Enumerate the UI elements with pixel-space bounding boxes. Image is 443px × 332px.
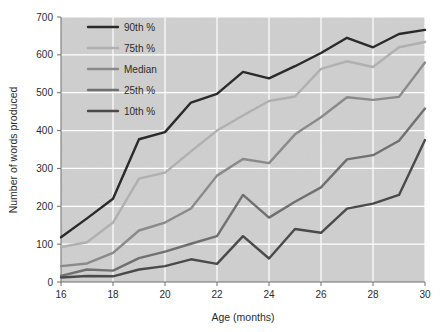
legend-label-median: Median <box>124 64 157 75</box>
y-tick-label: 500 <box>36 87 53 98</box>
x-axis-tick-marks <box>61 282 425 286</box>
plot-texture <box>61 17 425 282</box>
percentile-line-chart: 0100200300400500600700 1618202224262830 … <box>0 0 443 332</box>
y-axis-title: Number of words produced <box>7 87 19 214</box>
y-tick-label: 0 <box>47 277 53 288</box>
legend-label-25th: 25th % <box>124 85 155 96</box>
x-tick-label: 16 <box>55 289 67 300</box>
x-tick-label: 26 <box>315 289 327 300</box>
y-tick-label: 400 <box>36 125 53 136</box>
x-tick-label: 24 <box>263 289 275 300</box>
y-axis-tick-marks <box>57 17 61 282</box>
y-tick-label: 600 <box>36 49 53 60</box>
y-tick-label: 100 <box>36 239 53 250</box>
x-axis-tick-labels: 1618202224262830 <box>55 289 431 300</box>
y-tick-label: 200 <box>36 201 53 212</box>
legend-label-10th: 10th % <box>124 106 155 117</box>
y-tick-label: 700 <box>36 12 53 23</box>
x-tick-label: 30 <box>419 289 431 300</box>
legend-label-75th: 75th % <box>124 43 155 54</box>
figure-container: 0100200300400500600700 1618202224262830 … <box>0 0 443 332</box>
x-tick-label: 20 <box>159 289 171 300</box>
x-tick-label: 18 <box>107 289 119 300</box>
x-axis-title: Age (months) <box>211 311 274 323</box>
x-tick-label: 28 <box>367 289 379 300</box>
x-tick-label: 22 <box>211 289 223 300</box>
legend-label-90th: 90th % <box>124 22 155 33</box>
plot-grain-overlay <box>61 17 425 282</box>
y-tick-label: 300 <box>36 163 53 174</box>
y-axis-tick-labels: 0100200300400500600700 <box>36 12 53 288</box>
